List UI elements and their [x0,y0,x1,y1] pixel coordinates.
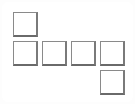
net-square-row-4 [100,41,125,66]
net-square-row-3 [71,41,96,66]
net-square-row-1 [13,41,38,66]
net-square-row-2 [42,41,67,66]
net-square-bottom [100,70,125,95]
net-square-top [13,12,38,37]
